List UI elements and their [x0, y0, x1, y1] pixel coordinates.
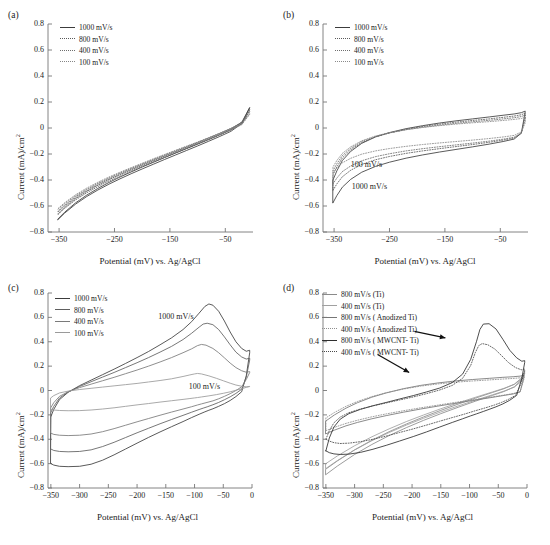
panel-b: (b) Current (mA)/cm2 1000 mV/s800 mV/s40…	[275, 0, 550, 272]
panel-a: (a) Current (mA)/cm2 1000 mV/s800 mV/s40…	[0, 0, 275, 272]
y-tick-label: 0	[14, 123, 44, 132]
x-tick-label: −250	[371, 235, 407, 244]
legend-label: 100 mV/s	[79, 57, 109, 69]
legend-label: 800 mV/s	[354, 34, 384, 46]
panel-b-legend: 1000 mV/s800 mV/s400 mV/s100 mV/s	[335, 22, 388, 68]
x-tick-label: −350	[316, 235, 352, 244]
legend-label: 400 mV/s	[74, 316, 104, 328]
y-tick-label: −0.2	[14, 149, 44, 158]
y-tick-label: 0.6	[14, 45, 44, 54]
y-tick-label: −0.8	[14, 227, 44, 236]
y-tick-label: −0.2	[289, 410, 319, 419]
legend-item: 400 mV/s	[335, 45, 388, 57]
x-tick-label: 0	[509, 491, 545, 500]
legend-item: 400 mV/s (Ti)	[322, 301, 419, 313]
y-tick-label: 0.2	[289, 361, 319, 370]
plot-annotation: 100 mV/s	[351, 160, 382, 169]
cv-figure: (a) Current (mA)/cm2 1000 mV/s800 mV/s40…	[0, 0, 550, 545]
legend-item: 100 mV/s	[335, 57, 388, 69]
y-tick-label: 0.8	[289, 19, 319, 28]
legend-item: 100 mV/s	[55, 328, 108, 340]
y-tick-label: 0.2	[289, 97, 319, 106]
legend-label: 800 mV/s	[79, 34, 109, 46]
series-curve	[58, 109, 250, 214]
y-tick-label: 0.8	[14, 19, 44, 28]
x-tick-label: 0	[234, 491, 270, 500]
y-tick-label: −0.6	[289, 459, 319, 468]
y-tick-label: −0.6	[14, 459, 44, 468]
legend-item: 400 mV/s ( Anodized Ti)	[322, 324, 419, 336]
y-tick-label: −0.6	[14, 201, 44, 210]
series-curve	[326, 344, 525, 444]
y-tick-label: −0.8	[14, 483, 44, 492]
legend-item: 800 mV/s	[60, 34, 113, 46]
legend-item: 800 mV/s	[335, 34, 388, 46]
legend-item: 800 mV/s ( MWCNT- Ti)	[322, 335, 419, 347]
legend-label: 800 mV/s (Ti)	[341, 289, 384, 301]
legend-label: 800 mV/s ( Anodized Ti)	[341, 312, 417, 324]
panel-b-x-axis-label: Potential (mV) vs. Ag/AgCl	[320, 256, 530, 266]
y-tick-label: 0	[289, 123, 319, 132]
legend-label: 800 mV/s	[74, 305, 104, 317]
y-tick-label: 0.8	[14, 288, 44, 297]
panel-d-x-axis-label: Potential (mV) vs. Ag/AgCl	[315, 512, 530, 522]
panel-c-legend: 1000 mV/s800 mV/s400 mV/s100 mV/s	[55, 293, 108, 339]
y-tick-label: −0.4	[289, 175, 319, 184]
y-tick-label: 0.4	[14, 337, 44, 346]
y-tick-label: 0.2	[14, 361, 44, 370]
y-tick-label: 0.6	[289, 45, 319, 54]
y-tick-label: 0.6	[14, 312, 44, 321]
series-curve	[51, 373, 250, 410]
panel-a-legend: 1000 mV/s800 mV/s400 mV/s100 mV/s	[60, 22, 113, 68]
legend-item: 400 mV/s	[55, 316, 108, 328]
y-tick-label: −0.2	[289, 149, 319, 158]
y-tick-label: −0.8	[289, 227, 319, 236]
legend-item: 1000 mV/s	[55, 293, 108, 305]
legend-label: 400 mV/s	[79, 45, 109, 57]
legend-label: 400 mV/s ( Anodized Ti)	[341, 324, 417, 336]
legend-item: 100 mV/s	[60, 57, 113, 69]
y-tick-label: 0.2	[14, 97, 44, 106]
legend-label: 800 mV/s ( MWCNT- Ti)	[341, 335, 419, 347]
y-tick-label: −0.4	[289, 434, 319, 443]
plot-annotation: 100 mV/s	[189, 382, 220, 391]
y-tick-label: −0.6	[289, 201, 319, 210]
legend-label: 400 mV/s ( MWCNT- Ti)	[341, 347, 419, 359]
legend-label: 100 mV/s	[74, 328, 104, 340]
x-tick-label: −150	[152, 235, 188, 244]
y-tick-label: 0.8	[289, 288, 319, 297]
x-tick-label: −50	[207, 235, 243, 244]
x-tick-label: −150	[427, 235, 463, 244]
plot-annotation: 1000 mV/s	[352, 182, 387, 191]
panel-c: (c) Current (mA)/cm2 1000 mV/s800 mV/s40…	[0, 273, 275, 545]
y-tick-label: 0.4	[14, 71, 44, 80]
series-curve	[326, 375, 524, 434]
legend-item: 800 mV/s (Ti)	[322, 289, 419, 301]
plot-annotation: 1000 mV/s	[158, 312, 193, 321]
legend-item: 400 mV/s	[60, 45, 113, 57]
y-tick-label: 0.4	[289, 71, 319, 80]
legend-item: 1000 mV/s	[335, 22, 388, 34]
y-tick-label: −0.2	[14, 410, 44, 419]
y-tick-label: 0	[14, 386, 44, 395]
y-tick-label: −0.4	[14, 434, 44, 443]
panel-a-x-axis-label: Potential (mV) vs. Ag/AgCl	[45, 256, 255, 266]
annotation-arrowhead	[440, 334, 446, 339]
y-tick-label: −0.8	[289, 483, 319, 492]
y-tick-label: −0.4	[14, 175, 44, 184]
panel-d: (d) Current (mA)/cm2 800 mV/s (Ti)400 mV…	[275, 273, 550, 545]
legend-item: 400 mV/s ( MWCNT- Ti)	[322, 347, 419, 359]
legend-label: 1000 mV/s	[74, 293, 108, 305]
legend-item: 800 mV/s ( Anodized Ti)	[322, 312, 419, 324]
y-tick-label: 0.4	[289, 337, 319, 346]
legend-label: 1000 mV/s	[79, 22, 113, 34]
y-tick-label: 0.6	[289, 312, 319, 321]
legend-item: 1000 mV/s	[60, 22, 113, 34]
x-tick-label: −250	[96, 235, 132, 244]
legend-label: 1000 mV/s	[354, 22, 388, 34]
panel-c-x-axis-label: Potential (mV) vs. Ag/AgCl	[40, 512, 255, 522]
y-tick-label: 0	[289, 386, 319, 395]
panel-d-legend: 800 mV/s (Ti)400 mV/s (Ti)800 mV/s ( Ano…	[322, 289, 419, 358]
legend-label: 100 mV/s	[354, 57, 384, 69]
series-curve	[58, 107, 250, 219]
